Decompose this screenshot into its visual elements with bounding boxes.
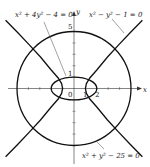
y-axis-label: y — [75, 8, 81, 16]
origin-label: 0 — [68, 91, 72, 99]
y-tick-5-label: 5 — [68, 23, 72, 31]
circle-leader-line — [97, 142, 104, 149]
x-axis-arrow-icon — [137, 87, 142, 91]
x-tick-2-label: 2 — [95, 91, 99, 99]
ellipse-equation-label: x² + 4y² − 4 = 0 — [15, 11, 73, 19]
circle-equation-label: x² + y² − 25 = 0 — [82, 152, 140, 160]
y-tick-1-label: 1 — [68, 70, 72, 78]
x-axis-label: x — [143, 86, 147, 94]
diagram-canvas: x² + 4y² − 4 = 0 x² − y² − 1 = 0 x² + y²… — [0, 0, 150, 167]
hyperbola-equation-label: x² − y² − 1 = 0 — [89, 11, 143, 19]
hyperbola-leader-line — [112, 19, 124, 33]
ellipse-leader-line — [44, 22, 66, 76]
x-tick-1-label: 1 — [83, 91, 87, 99]
